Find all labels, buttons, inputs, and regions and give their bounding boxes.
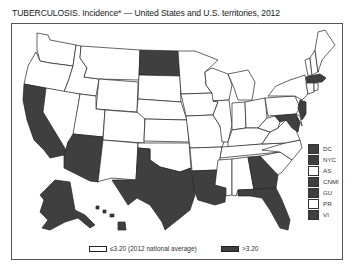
state-ak	[40, 180, 95, 230]
state-nd	[139, 50, 180, 76]
state-ny	[268, 75, 308, 100]
state-in	[232, 102, 246, 130]
swatch-high	[308, 155, 319, 165]
swatch-high	[308, 177, 319, 187]
swatch-high	[308, 188, 319, 198]
territory-as: AS	[308, 165, 339, 176]
state-wy	[96, 79, 138, 112]
swatch-low	[308, 199, 319, 209]
state-mt	[80, 46, 140, 80]
state-az	[64, 134, 103, 182]
legend-low: ≤3.20 (2012 national average)	[89, 245, 197, 252]
territory-vi: VI	[308, 209, 339, 220]
territory-dc: DC	[308, 143, 339, 154]
state-wa	[37, 33, 76, 66]
swatch-low	[89, 246, 107, 252]
legend-high: >3.20	[221, 245, 258, 252]
us-choropleth-map	[0, 0, 354, 266]
state-hi	[96, 206, 126, 230]
state-pa	[265, 96, 300, 116]
state-nm	[98, 140, 138, 182]
state-ne	[137, 99, 187, 120]
swatch-high	[308, 144, 319, 154]
swatch-high	[308, 210, 319, 220]
state-co	[103, 110, 145, 143]
state-sd	[138, 75, 181, 102]
territory-cnmi: CNMI	[308, 176, 339, 187]
territory-gu: GU	[308, 187, 339, 198]
swatch-high	[221, 246, 239, 252]
swatch-low	[308, 166, 319, 176]
state-ri	[314, 83, 318, 91]
territory-pr: PR	[308, 198, 339, 209]
territory-nyc: NYC	[308, 154, 339, 165]
state-ks	[144, 119, 189, 142]
territory-legend: DC NYC AS CNMI GU PR VI	[308, 143, 339, 220]
state-me	[315, 30, 335, 72]
state-fl	[238, 188, 290, 230]
